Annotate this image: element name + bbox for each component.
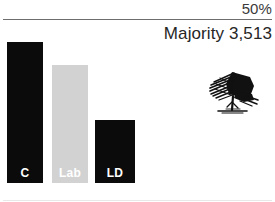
bottom-rule	[3, 200, 272, 201]
bar-liberal-democrat: LD	[95, 120, 135, 183]
bar-label-conservative: C	[7, 167, 43, 180]
tree-icon	[202, 64, 260, 122]
bar-labour: Lab	[52, 65, 88, 183]
bar-conservative: C	[7, 42, 43, 183]
bar-label-labour: Lab	[52, 167, 88, 180]
conservative-party-tree-logo	[202, 64, 260, 122]
bar-label-liberal-democrat: LD	[95, 167, 135, 180]
election-result-bar-chart: 50% Majority 3,513 C Lab LD	[0, 0, 275, 202]
